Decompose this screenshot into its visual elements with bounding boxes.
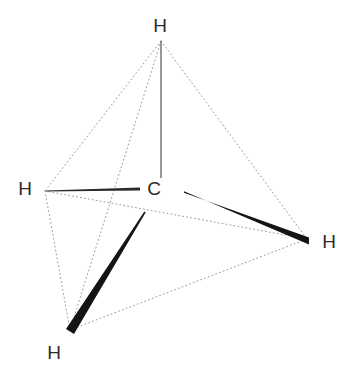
atom-label-h-bottom: H bbox=[47, 343, 61, 362]
bond-c-h-bottom bbox=[66, 212, 146, 334]
edge-left-right bbox=[45, 191, 307, 239]
bond-c-h-left bbox=[46, 187, 140, 191]
atom-label-h-left: H bbox=[18, 179, 32, 198]
edge-bottom-right bbox=[70, 239, 307, 330]
atom-label-h-top: H bbox=[153, 16, 167, 35]
edge-apex-left bbox=[45, 41, 161, 191]
molecule-svg bbox=[0, 0, 360, 376]
atom-label-h-right: H bbox=[322, 232, 336, 251]
edge-left-bottom bbox=[45, 191, 70, 330]
bonds bbox=[46, 41, 309, 334]
atom-label-c-center: C bbox=[147, 179, 161, 198]
methane-structure-diagram: H H C H H bbox=[0, 0, 360, 376]
bond-c-h-right bbox=[184, 191, 309, 244]
tetrahedron-edges bbox=[45, 41, 307, 330]
edge-apex-right bbox=[161, 41, 307, 239]
